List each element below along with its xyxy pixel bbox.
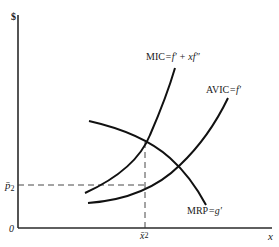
- monopsony-diagram: $ x 0 p̄2 x̄2 MIC=f′ + xf″ AVIC=f′ MRP=g…: [0, 0, 279, 247]
- avic-label-main: AVIC: [206, 84, 229, 95]
- mrp-curve: [89, 121, 206, 205]
- price-label-subscript: 2: [11, 184, 15, 193]
- mic-label-equation: =f′ + xf″: [165, 51, 201, 62]
- mrp-label: MRP=g′: [187, 205, 223, 216]
- avic-label-equation: =f′: [229, 84, 242, 95]
- origin-label: 0: [9, 223, 14, 234]
- mrp-label-equation: =g′: [208, 205, 223, 216]
- x-axis-label: x: [267, 230, 273, 242]
- quantity-label-superscript: 2: [144, 231, 148, 240]
- avic-label: AVIC=f′: [206, 84, 242, 95]
- mic-label-main: MIC: [146, 51, 165, 62]
- mic-label: MIC=f′ + xf″: [146, 51, 201, 62]
- price-label: p̄2: [4, 179, 15, 193]
- mrp-label-main: MRP: [187, 205, 209, 216]
- guides: [18, 142, 145, 228]
- mic-curve: [85, 68, 175, 193]
- quantity-label: x̄2: [139, 230, 148, 241]
- y-axis-label: $: [11, 11, 16, 22]
